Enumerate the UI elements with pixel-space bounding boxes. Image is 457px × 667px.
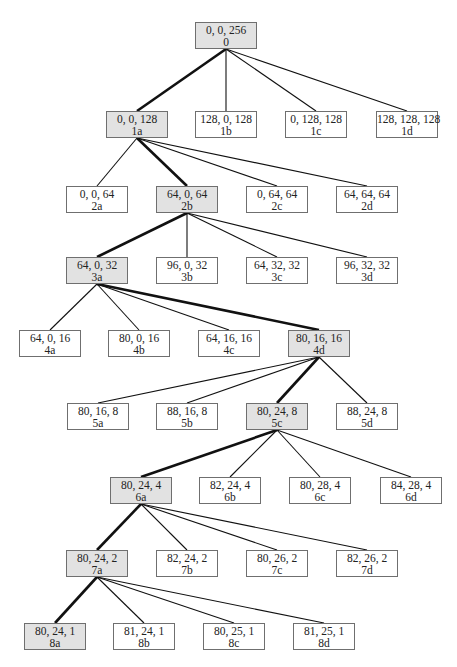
node-coords: 84, 28, 4 [381, 479, 441, 491]
node-label: 1d [377, 125, 437, 137]
tree-node-3b: 96, 0, 32 3b [156, 257, 218, 284]
node-coords: 0, 128, 128 [286, 113, 346, 125]
node-label: 7c [247, 564, 307, 576]
node-label: 2a [67, 200, 127, 212]
node-coords: 0, 0, 256 [196, 24, 256, 36]
tree-edge [319, 357, 367, 403]
node-coords: 96, 0, 32 [157, 259, 217, 271]
node-coords: 81, 24, 1 [114, 625, 174, 637]
node-coords: 80, 24, 1 [25, 625, 85, 637]
node-coords: 80, 26, 2 [247, 552, 307, 564]
tree-node-3c: 64, 32, 32 3c [246, 257, 308, 284]
node-label: 4a [20, 344, 80, 356]
tree-edge [226, 49, 316, 111]
tree-node-7a: 80, 24, 2 7a [66, 550, 128, 577]
node-label: 2c [247, 200, 307, 212]
tree-node-4d: 80, 16, 16 4d [288, 330, 350, 357]
tree-node-1b: 128, 0, 128 1b [195, 111, 257, 138]
tree-edge [97, 577, 144, 623]
tree-edge [277, 430, 411, 477]
selected-path-edge [137, 138, 187, 186]
tree-edge [187, 213, 277, 257]
tree-node-5d: 88, 24, 8 5d [336, 403, 398, 430]
node-coords: 82, 26, 2 [337, 552, 397, 564]
tree-node-4c: 64, 16, 16 4c [198, 330, 260, 357]
node-coords: 80, 28, 4 [290, 479, 350, 491]
node-coords: 88, 24, 8 [337, 405, 397, 417]
node-label: 3b [157, 271, 217, 283]
node-coords: 64, 16, 16 [199, 332, 259, 344]
tree-edge [141, 504, 187, 550]
tree-edge [97, 577, 324, 623]
tree-node-5b: 88, 16, 8 5b [156, 403, 218, 430]
node-coords: 80, 16, 8 [68, 405, 128, 417]
node-coords: 80, 0, 16 [109, 332, 169, 344]
node-label: 1b [196, 125, 256, 137]
tree-edge [137, 138, 367, 186]
node-label: 4d [289, 344, 349, 356]
node-coords: 80, 24, 4 [111, 479, 171, 491]
selected-path-edge [97, 213, 187, 257]
tree-node-7d: 82, 26, 2 7d [336, 550, 398, 577]
node-label: 6a [111, 491, 171, 503]
tree-edge [98, 357, 319, 403]
tree-node-6a: 80, 24, 4 6a [110, 477, 172, 504]
tree-edge [97, 577, 234, 623]
tree-node-3a: 64, 0, 32 3a [66, 257, 128, 284]
tree-node-8a: 80, 24, 1 8a [24, 623, 86, 650]
node-label: 8a [25, 637, 85, 649]
tree-edge [137, 138, 277, 186]
tree-edge [97, 138, 137, 186]
node-coords: 80, 16, 16 [289, 332, 349, 344]
selected-path-edge [97, 504, 141, 550]
node-label: 4b [109, 344, 169, 356]
node-label: 2d [337, 200, 397, 212]
node-coords: 80, 24, 2 [67, 552, 127, 564]
node-coords: 0, 0, 128 [107, 113, 167, 125]
node-label: 7a [67, 564, 127, 576]
selected-path-edge [55, 577, 97, 623]
node-coords: 128, 128, 128 [377, 113, 437, 125]
tree-node-8b: 81, 24, 1 8b [113, 623, 175, 650]
node-label: 5b [157, 417, 217, 429]
tree-edge [226, 49, 407, 111]
tree-node-0: 0, 0, 256 0 [195, 22, 257, 49]
tree-node-5a: 80, 16, 8 5a [67, 403, 129, 430]
node-coords: 80, 24, 8 [247, 405, 307, 417]
node-coords: 81, 25, 1 [294, 625, 354, 637]
node-label: 8b [114, 637, 174, 649]
tree-node-8c: 80, 25, 1 8c [203, 623, 265, 650]
node-coords: 64, 32, 32 [247, 259, 307, 271]
node-coords: 82, 24, 2 [157, 552, 217, 564]
node-label: 3c [247, 271, 307, 283]
node-label: 5a [68, 417, 128, 429]
node-label: 8c [204, 637, 264, 649]
tree-node-5c: 80, 24, 8 5c [246, 403, 308, 430]
node-coords: 82, 24, 4 [200, 479, 260, 491]
node-label: 4c [199, 344, 259, 356]
tree-edge [50, 284, 97, 330]
node-coords: 64, 0, 16 [20, 332, 80, 344]
tree-node-2b: 64, 0, 64 2b [156, 186, 218, 213]
node-label: 7b [157, 564, 217, 576]
node-label: 6c [290, 491, 350, 503]
tree-node-3d: 96, 32, 32 3d [336, 257, 398, 284]
node-label: 1c [286, 125, 346, 137]
node-label: 6d [381, 491, 441, 503]
node-coords: 0, 0, 64 [67, 188, 127, 200]
node-coords: 88, 16, 8 [157, 405, 217, 417]
tree-node-2a: 0, 0, 64 2a [66, 186, 128, 213]
node-label: 0 [196, 36, 256, 48]
node-label: 1a [107, 125, 167, 137]
selected-path-edge [137, 49, 226, 111]
node-label: 5c [247, 417, 307, 429]
node-coords: 64, 0, 64 [157, 188, 217, 200]
node-coords: 128, 0, 128 [196, 113, 256, 125]
tree-node-1d: 128, 128, 128 1d [376, 111, 438, 138]
tree-edge [141, 504, 367, 550]
node-coords: 80, 25, 1 [204, 625, 264, 637]
node-coords: 0, 64, 64 [247, 188, 307, 200]
node-label: 3d [337, 271, 397, 283]
tree-node-4a: 64, 0, 16 4a [19, 330, 81, 357]
tree-node-6c: 80, 28, 4 6c [289, 477, 351, 504]
